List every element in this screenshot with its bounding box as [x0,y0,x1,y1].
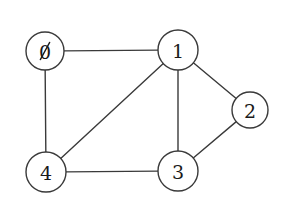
graph-edge-2-3 [193,122,236,158]
graph-edge-3-4 [66,171,158,172]
node-layer: 01234 [26,30,268,192]
graph-canvas: 01234 [0,0,284,207]
graph-figure: 01234 [0,0,284,207]
graph-node-label-2: 2 [244,100,256,122]
graph-edge-0-1 [64,50,158,51]
graph-node-label-3: 3 [172,161,184,183]
graph-node-3: 3 [158,151,198,191]
graph-node-label-1: 1 [172,40,184,62]
graph-node-0: 0 [26,32,64,70]
graph-node-4: 4 [26,152,66,192]
graph-edge-1-4 [61,64,164,159]
graph-node-label-4: 4 [40,162,52,184]
graph-edge-0-4 [45,70,46,152]
graph-node-1: 1 [158,30,198,70]
graph-edge-1-2 [193,63,236,99]
edge-layer [45,50,236,172]
graph-node-2: 2 [232,92,268,128]
